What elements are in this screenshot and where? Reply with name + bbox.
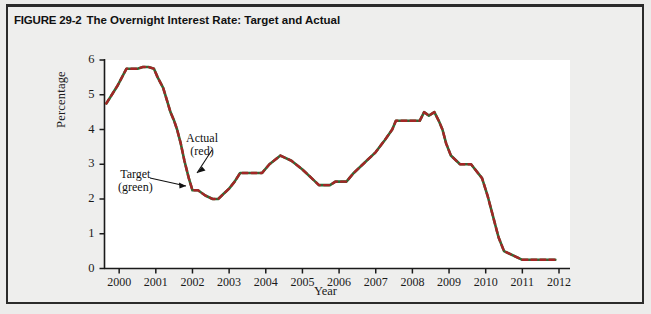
figure-title: FIGURE 29-2The Overnight Interest Rate: … bbox=[14, 14, 614, 34]
figure-frame bbox=[6, 4, 644, 304]
figure-caption bbox=[14, 305, 624, 313]
figure-number: FIGURE 29-2 bbox=[14, 14, 81, 26]
figure-container: FIGURE 29-2The Overnight Interest Rate: … bbox=[0, 0, 651, 314]
figure-title-text: The Overnight Interest Rate: Target and … bbox=[86, 14, 340, 26]
